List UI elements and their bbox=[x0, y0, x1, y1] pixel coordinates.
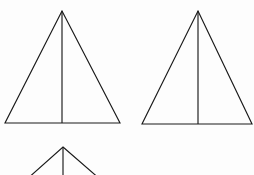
triangle-top-right-outline bbox=[142, 11, 252, 124]
triangle-bottom-center bbox=[26, 147, 101, 175]
triangle-top-right bbox=[142, 11, 252, 124]
triangles-figure bbox=[0, 0, 254, 175]
triangle-top-left bbox=[5, 11, 120, 123]
figure-canvas bbox=[0, 0, 254, 175]
